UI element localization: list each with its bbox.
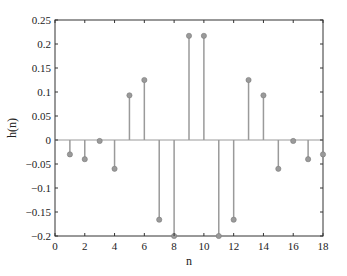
y-tick-label: 0.15 — [32, 62, 52, 74]
stem-marker — [261, 93, 266, 98]
x-tick-label: 8 — [171, 240, 177, 252]
stem-marker — [306, 157, 311, 162]
x-tick-label: 12 — [228, 240, 239, 252]
y-tick-label: 0.1 — [37, 86, 51, 98]
stem-marker — [112, 166, 117, 171]
stem-marker — [186, 33, 191, 38]
stem-marker — [127, 93, 132, 98]
stem-marker — [157, 217, 162, 222]
y-tick-label: −0.15 — [26, 206, 52, 218]
y-axis-label: h(n) — [5, 118, 19, 138]
stem-marker — [276, 166, 281, 171]
x-tick-label: 16 — [288, 240, 300, 252]
x-axis-label: n — [186, 254, 192, 268]
y-tick-label: −0.2 — [31, 230, 51, 242]
data-stems — [67, 33, 325, 238]
stem-plot: 024681012141618 −0.2−0.15−0.1−0.0500.050… — [0, 0, 347, 276]
stem-marker — [246, 77, 251, 82]
x-tick-label: 10 — [198, 240, 210, 252]
stem-marker — [97, 138, 102, 143]
x-axis-ticks: 024681012141618 — [52, 20, 329, 252]
y-tick-label: −0.1 — [31, 182, 51, 194]
stem-marker — [67, 152, 72, 157]
y-tick-label: 0.05 — [32, 110, 52, 122]
stem-marker — [201, 33, 206, 38]
x-tick-label: 2 — [82, 240, 88, 252]
stem-marker — [142, 77, 147, 82]
y-tick-label: −0.05 — [26, 158, 52, 170]
stem-marker — [216, 233, 221, 238]
y-tick-label: 0.2 — [37, 38, 51, 50]
stem-marker — [320, 152, 325, 157]
stem-marker — [291, 138, 296, 143]
x-tick-label: 6 — [142, 240, 148, 252]
x-tick-label: 4 — [112, 240, 118, 252]
x-tick-label: 14 — [258, 240, 270, 252]
x-tick-label: 0 — [52, 240, 58, 252]
stem-marker — [82, 157, 87, 162]
stem-marker — [231, 217, 236, 222]
y-tick-label: 0.25 — [32, 14, 52, 26]
y-tick-label: 0 — [46, 134, 52, 146]
x-tick-label: 18 — [318, 240, 330, 252]
